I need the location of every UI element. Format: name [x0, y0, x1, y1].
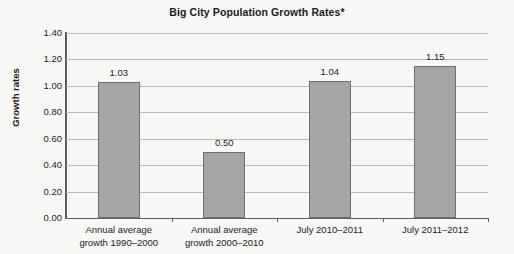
x-category-label-line: growth 1990–2000 — [60, 237, 178, 250]
y-tick-label: 1.00 — [28, 81, 62, 91]
y-tick-label: 1.40 — [28, 28, 62, 38]
bar-value-label: 1.03 — [89, 68, 149, 78]
y-tick-label: 0.00 — [28, 213, 62, 223]
x-tick-mark — [172, 218, 173, 222]
x-category-label-line: July 2010–2011 — [271, 224, 389, 237]
x-category-label: Annual averagegrowth 2000–2010 — [165, 224, 283, 249]
x-category-label-line: growth 2000–2010 — [165, 237, 283, 250]
x-category-label: July 2010–2011 — [271, 224, 389, 237]
bar-chart-figure: Big City Population Growth Rates* Growth… — [0, 0, 514, 254]
x-category-label-line: Annual average — [60, 224, 178, 237]
bar-value-label: 0.50 — [194, 138, 254, 148]
x-category-label-line: July 2011–2012 — [376, 224, 494, 237]
bar[interactable] — [98, 82, 140, 218]
x-category-label: Annual averagegrowth 1990–2000 — [60, 224, 178, 249]
bar-value-label: 1.04 — [300, 67, 360, 77]
x-category-label: July 2011–2012 — [376, 224, 494, 237]
chart-title: Big City Population Growth Rates* — [0, 6, 514, 18]
x-tick-mark — [383, 218, 384, 222]
bar-value-label: 1.15 — [405, 52, 465, 62]
x-category-label-line: Annual average — [165, 224, 283, 237]
y-axis-tick-labels: 1.401.201.000.800.600.400.200.00 — [22, 0, 62, 254]
y-tick-label: 0.20 — [28, 187, 62, 197]
gridline — [66, 33, 488, 34]
y-tick-label: 0.80 — [28, 107, 62, 117]
y-tick-label: 0.60 — [28, 134, 62, 144]
y-axis-title: Growth rates — [10, 48, 21, 148]
bar[interactable] — [309, 81, 351, 218]
x-tick-mark — [277, 218, 278, 222]
bar[interactable] — [414, 66, 456, 218]
y-tick-label: 1.20 — [28, 54, 62, 64]
bar[interactable] — [203, 152, 245, 218]
y-tick-label: 0.40 — [28, 160, 62, 170]
x-tick-mark — [488, 218, 489, 222]
plot-area: 1.030.501.041.15 — [66, 33, 488, 218]
